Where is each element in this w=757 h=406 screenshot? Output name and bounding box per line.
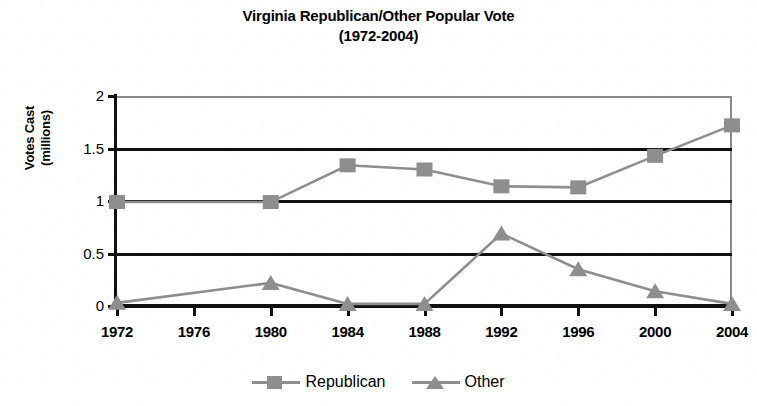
- data-point-marker-republican: [724, 118, 740, 132]
- data-point-marker-republican: [570, 180, 586, 194]
- series-line-other: [117, 234, 732, 304]
- chart-container: Virginia Republican/Other Popular Vote (…: [0, 0, 757, 406]
- data-point-marker-other: [492, 226, 510, 241]
- legend-label: Republican: [305, 374, 385, 390]
- chart-legend: RepublicanOther: [0, 374, 757, 390]
- legend-label: Other: [465, 374, 505, 390]
- data-point-marker-republican: [109, 195, 125, 209]
- legend-marker-triangle-icon: [412, 374, 460, 390]
- data-point-marker-other: [569, 261, 587, 276]
- data-point-marker-republican: [647, 149, 663, 163]
- data-point-marker-republican: [417, 163, 433, 177]
- data-point-marker-other: [262, 275, 280, 290]
- legend-triangle-icon: [426, 376, 444, 389]
- legend-entry[interactable]: Republican: [252, 374, 385, 390]
- data-point-marker-republican: [263, 195, 279, 209]
- legend-marker-square-icon: [252, 374, 300, 390]
- series-plot: [0, 0, 757, 406]
- legend-entry[interactable]: Other: [412, 374, 505, 390]
- data-point-marker-republican: [340, 158, 356, 172]
- legend-square-icon: [267, 376, 282, 389]
- data-point-marker-republican: [493, 179, 509, 193]
